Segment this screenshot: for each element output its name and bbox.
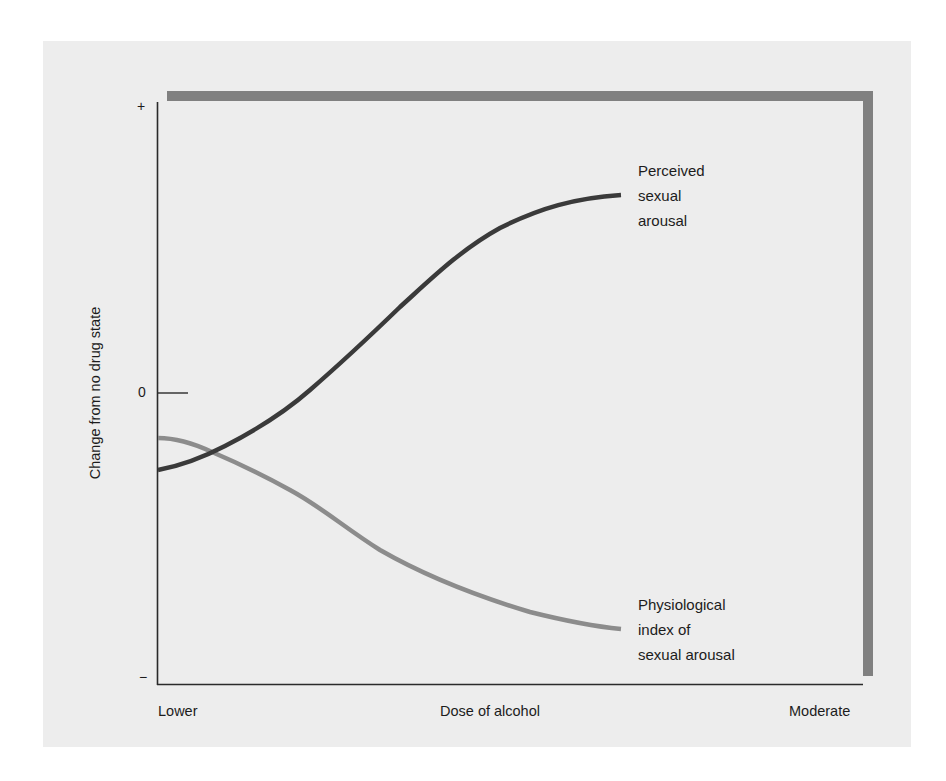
perceived-label-line-3: arousal: [638, 208, 705, 234]
frame-right-bar: [863, 91, 873, 676]
y-tick-minus: −: [139, 669, 147, 685]
frame-top-bar: [167, 91, 873, 101]
perceived-curve: [158, 195, 621, 470]
physiological-curve: [158, 438, 621, 629]
physiological-label-line-2: index of: [638, 617, 735, 642]
physiological-label-line-1: Physiological: [638, 592, 735, 617]
x-tick-moderate: Moderate: [789, 703, 850, 719]
perceived-label: Perceived sexual arousal: [638, 158, 705, 234]
x-axis-label: Dose of alcohol: [440, 703, 540, 719]
perceived-label-line-2: sexual: [638, 183, 705, 209]
x-tick-lower: Lower: [158, 703, 198, 719]
y-tick-zero: 0: [138, 384, 146, 400]
y-tick-plus: +: [137, 98, 145, 114]
physiological-label: Physiological index of sexual arousal: [638, 592, 735, 667]
physiological-label-line-3: sexual arousal: [638, 642, 735, 667]
y-axis-label: Change from no drug state: [87, 307, 103, 480]
perceived-label-line-1: Perceived: [638, 158, 705, 184]
